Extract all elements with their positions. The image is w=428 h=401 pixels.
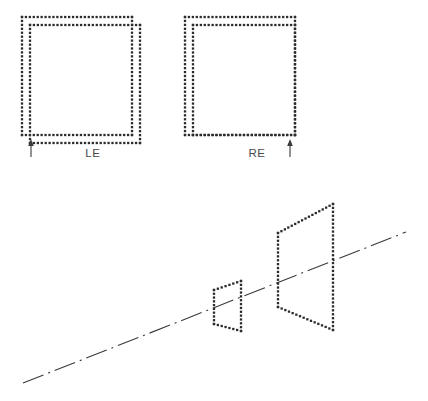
left-eye-square-outer-rect-edge-dot: [21, 36, 23, 38]
small-trapezoid-edge-dot: [221, 325, 223, 327]
right-eye-square-outer-rect-edge-dot: [184, 16, 186, 18]
right-eye-square-outer-rect-edge-dot: [184, 51, 186, 53]
left-eye-square-inner-rect-edge-dot: [96, 24, 98, 26]
right-eye-square-outer-rect-edge-dot: [203, 16, 205, 18]
right-eye-square-outer-rect-edge-dot: [184, 24, 186, 26]
left-eye-square-inner-rect-edge-dot: [123, 142, 125, 144]
left-eye-square-outer-rect-edge-dot: [131, 126, 133, 128]
large-trapezoid-edge-dot: [332, 215, 334, 217]
left-eye-square-outer-rect-edge-dot: [21, 59, 23, 61]
large-trapezoid-edge-dot: [332, 211, 334, 213]
left-eye-square-inner-rect-edge-dot: [29, 24, 31, 26]
large-trapezoid-edge-dot: [277, 240, 279, 242]
left-eye-square-inner-rect-edge-dot: [139, 114, 141, 116]
right-eye-square-inner-rect-edge-dot: [294, 63, 296, 65]
large-trapezoid-edge-dot: [299, 315, 301, 317]
right-eye-square-inner-rect-edge-dot: [192, 79, 194, 81]
left-eye-square-outer-rect-edge-dot: [21, 79, 23, 81]
right-eye-square-outer-rect-edge-dot: [200, 16, 202, 18]
left-eye-square-inner-rect-edge-dot: [72, 142, 74, 144]
left-eye-square-outer-rect-edge-dot: [131, 91, 133, 93]
right-eye-square-inner-rect-edge-dot: [294, 24, 296, 26]
large-trapezoid-edge-dot: [277, 255, 279, 257]
left-eye-square-outer-rect-edge-dot: [131, 110, 133, 112]
large-trapezoid-edge-dot: [306, 318, 308, 320]
right-eye-square-inner-rect-edge-dot: [266, 134, 268, 136]
right-eye-square-outer-rect-edge-dot: [274, 16, 276, 18]
right-eye-square-outer-rect-edge-dot: [184, 39, 186, 41]
left-eye-square-inner-rect-edge-dot: [139, 95, 141, 97]
left-eye-square-outer-rect-edge-dot: [37, 134, 39, 136]
right-eye-square-inner-rect-edge-dot: [192, 24, 194, 26]
left-eye-square-outer-rect-edge-dot: [21, 47, 23, 49]
left-eye-square-outer-rect-edge-dot: [60, 16, 62, 18]
left-eye-square-outer-rect-edge-dot: [131, 67, 133, 69]
large-trapezoid-edge-dot: [332, 305, 334, 307]
left-eye-square-inner-rect-edge-dot: [48, 24, 50, 26]
left-eye-square-inner-rect-edge-dot: [103, 24, 105, 26]
left-eye-square-outer-rect-edge-dot: [103, 16, 105, 18]
large-trapezoid-edge-dot: [332, 219, 334, 221]
large-trapezoid-edge-dot: [332, 223, 334, 225]
right-eye-square-outer-rect-edge-dot: [294, 20, 296, 22]
left-eye-square-inner-rect-edge-dot: [139, 118, 141, 120]
left-eye-square-outer-rect-edge-dot: [48, 16, 50, 18]
right-eye-square-inner-rect-edge-dot: [192, 102, 194, 104]
right-eye-square-inner-rect-edge-dot: [192, 36, 194, 38]
large-trapezoid-edge-dot: [288, 310, 290, 312]
right-eye-square-outer-rect-edge-dot: [184, 122, 186, 124]
left-eye-square-inner-rect-edge-dot: [139, 138, 141, 140]
large-trapezoid-edge-dot: [284, 228, 286, 230]
label-left-eye: LE: [85, 147, 100, 159]
left-eye-square-inner-rect-edge-dot: [72, 24, 74, 26]
large-trapezoid-edge-dot: [332, 226, 334, 228]
left-eye-square-inner-rect-edge-dot: [139, 36, 141, 38]
right-eye-square-inner-rect-edge-dot: [239, 134, 241, 136]
left-eye-square-outer-rect-edge-dot: [111, 134, 113, 136]
left-eye-square-inner-rect-edge-dot: [139, 47, 141, 49]
large-trapezoid-edge-dot: [277, 294, 279, 296]
left-eye-square-outer-rect-edge-dot: [80, 16, 82, 18]
left-eye-square-outer-rect-edge-dot: [131, 87, 133, 89]
right-eye-square-inner-rect-edge-dot: [270, 134, 272, 136]
left-eye-square-inner-rect-edge-dot: [135, 142, 137, 144]
left-eye-square-inner-rect-edge-dot: [139, 122, 141, 124]
small-trapezoid-edge-dot: [228, 284, 230, 286]
small-trapezoid-edge-dot: [240, 295, 242, 297]
small-trapezoid-edge-dot: [213, 312, 215, 314]
left-eye-square-inner-rect-edge-dot: [139, 40, 141, 42]
right-eye-square-outer-rect-edge-dot: [184, 118, 186, 120]
right-eye-square-outer-rect-edge-dot: [278, 16, 280, 18]
left-eye-square-inner-rect-edge-dot: [135, 24, 137, 26]
left-eye-square-outer-rect-edge-dot: [21, 91, 23, 93]
right-eye-square-inner-rect-edge-dot: [294, 122, 296, 124]
left-eye-square-outer-rect-edge-dot: [131, 16, 133, 18]
right-eye-square-inner-rect-edge-dot: [204, 24, 206, 26]
large-trapezoid-edge-dot: [332, 313, 334, 315]
right-eye-square-inner-rect-edge-dot: [294, 43, 296, 45]
right-eye-square-inner-rect-edge-dot: [266, 24, 268, 26]
right-eye-square-inner-rect-edge-dot: [274, 24, 276, 26]
left-eye-square-inner-rect-edge-dot: [111, 24, 113, 26]
left-eye-square-inner-rect-edge-dot: [29, 83, 31, 85]
right-eye-square-outer-rect-edge-dot: [262, 16, 264, 18]
left-eye-square-inner-rect-edge-dot: [139, 67, 141, 69]
left-eye-square-outer-rect-edge-dot: [131, 20, 133, 22]
large-trapezoid-edge-dot: [332, 246, 334, 248]
large-trapezoid-edge-dot: [277, 271, 279, 273]
left-eye-square-outer-rect-edge-dot: [107, 16, 109, 18]
right-eye-square-outer-rect-edge-dot: [184, 36, 186, 38]
left-eye-square-outer-rect-edge-dot: [21, 95, 23, 97]
left-eye-square-inner-rect-edge-dot: [103, 142, 105, 144]
large-trapezoid-edge-dot: [277, 279, 279, 281]
right-eye-square-inner-rect-edge-dot: [294, 79, 296, 81]
small-trapezoid-edge-dot: [240, 299, 242, 301]
left-eye-square-outer-rect-edge-dot: [119, 134, 121, 136]
left-eye-square-outer-rect-edge-dot: [72, 134, 74, 136]
left-eye-square-inner-rect-edge-dot: [139, 32, 141, 34]
right-eye-square-inner-rect-edge-dot: [294, 47, 296, 49]
large-trapezoid-edge-dot: [332, 258, 334, 260]
technical-diagram: LE RE: [0, 0, 428, 401]
right-eye-square-outer-rect-edge-dot: [196, 16, 198, 18]
large-trapezoid-edge-dot: [277, 282, 279, 284]
